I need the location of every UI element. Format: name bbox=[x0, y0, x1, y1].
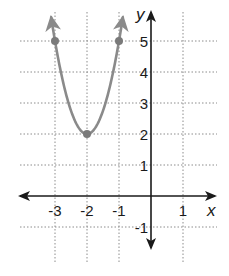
parabola-curve bbox=[51, 17, 123, 138]
coordinate-plane: -3-2-1154321-1 x y bbox=[0, 0, 229, 276]
y-axis-label: y bbox=[135, 5, 146, 24]
x-tick-label: -2 bbox=[80, 202, 93, 219]
y-tick-label: 2 bbox=[140, 126, 148, 143]
y-tick-label: 4 bbox=[140, 64, 148, 81]
parabola-right-branch bbox=[87, 17, 123, 134]
y-tick-label: 5 bbox=[140, 33, 148, 50]
plotted-point bbox=[115, 37, 123, 45]
y-tick-label: 3 bbox=[140, 95, 148, 112]
x-tick-label: 1 bbox=[179, 202, 187, 219]
plotted-point bbox=[51, 37, 59, 45]
parabola-left-branch bbox=[51, 17, 87, 134]
x-tick-label: -3 bbox=[48, 202, 61, 219]
y-tick-label: 1 bbox=[140, 157, 148, 174]
x-axis-label: x bbox=[206, 201, 216, 220]
plotted-point bbox=[83, 130, 91, 138]
x-tick-label: -1 bbox=[112, 202, 125, 219]
y-tick-label: -1 bbox=[135, 219, 148, 236]
